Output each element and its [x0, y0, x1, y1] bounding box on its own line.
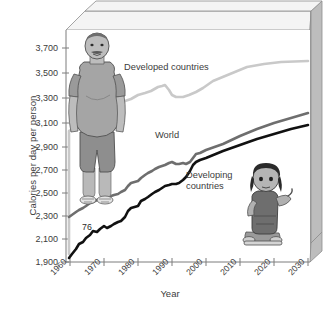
y-tick-label: 3,100 — [16, 118, 58, 128]
series-label-developing-countries: Developing countries — [186, 170, 233, 192]
frame-top-panel — [66, 11, 311, 30]
series-label-developed-countries: Developed countries — [124, 62, 209, 73]
frame-top-cap — [85, 1, 322, 11]
y-tick-label: 3,500 — [16, 68, 58, 78]
annotation-76: 76 — [82, 222, 92, 232]
y-tick-label: 2,700 — [16, 165, 58, 175]
y-tick-label: 3,300 — [16, 93, 58, 103]
x-axis-title: Year — [120, 288, 220, 299]
series-label-developing-line1: Developing — [186, 170, 233, 180]
y-tick-label: 2,100 — [16, 234, 58, 244]
y-tick-label: 2,500 — [16, 188, 58, 198]
series-label-world: World — [155, 130, 179, 141]
y-tick-label: 2,300 — [16, 211, 58, 221]
frame-top-right-wedge — [311, 1, 322, 243]
y-axis-title: Calories per day per person — [27, 46, 38, 266]
y-tick-label: 2,900 — [16, 142, 58, 152]
series-label-developing-line2: countries — [186, 181, 224, 191]
chart-figure: Calories per day per person Year 3,700 3… — [0, 0, 328, 309]
y-tick-label: 3,700 — [16, 43, 58, 53]
